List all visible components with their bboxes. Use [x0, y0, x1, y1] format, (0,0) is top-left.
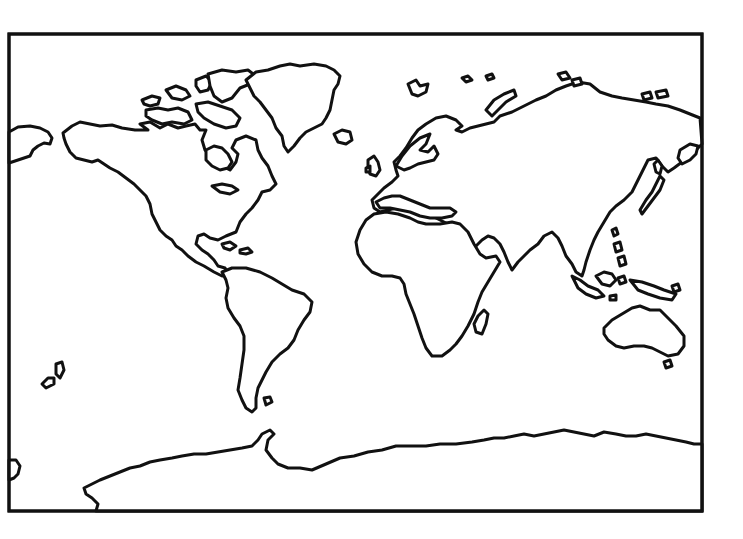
world-map [0, 0, 743, 539]
region-southeast-asia-islands[interactable] [630, 280, 676, 300]
region-arctic-islands[interactable] [642, 92, 652, 100]
region-canadian-arctic-islands[interactable] [166, 86, 190, 100]
region-southeast-asia-islands[interactable] [610, 295, 616, 300]
region-caribbean[interactable] [222, 242, 236, 250]
region-new-zealand[interactable] [56, 362, 64, 378]
region-arctic-islands[interactable] [558, 72, 570, 80]
region-madagascar[interactable] [474, 310, 488, 334]
region-antarctica[interactable] [84, 430, 702, 511]
region-japan[interactable] [654, 160, 662, 174]
region-tasmania[interactable] [664, 360, 672, 368]
region-arctic-islands[interactable] [408, 80, 428, 96]
region-southeast-asia-islands[interactable] [672, 284, 680, 292]
region-greenland[interactable] [246, 64, 340, 152]
region-british-isles[interactable] [366, 166, 370, 172]
region-south-america[interactable] [222, 268, 312, 412]
region-australia[interactable] [604, 306, 684, 356]
region-canadian-arctic-islands[interactable] [142, 96, 160, 106]
region-antarctica-west[interactable] [9, 460, 20, 480]
region-arctic-islands[interactable] [486, 74, 494, 80]
region-southeast-asia-islands[interactable] [618, 276, 626, 284]
region-southeast-asia-islands[interactable] [596, 272, 616, 286]
region-canadian-arctic-islands[interactable] [196, 102, 240, 128]
region-caribbean[interactable] [240, 248, 252, 254]
region-southeast-asia-islands[interactable] [614, 242, 622, 252]
region-arctic-islands[interactable] [462, 76, 472, 82]
region-southeast-asia-islands[interactable] [618, 256, 626, 266]
region-southeast-asia-islands[interactable] [612, 228, 618, 236]
region-japan[interactable] [640, 176, 664, 214]
region-canadian-arctic-islands[interactable] [146, 108, 192, 124]
region-falklands[interactable] [264, 397, 272, 405]
region-arctic-islands[interactable] [656, 90, 668, 98]
region-iceland[interactable] [334, 130, 352, 144]
region-new-zealand[interactable] [42, 378, 54, 388]
region-arctic-islands[interactable] [572, 78, 582, 86]
region-chukotka[interactable] [9, 126, 52, 163]
